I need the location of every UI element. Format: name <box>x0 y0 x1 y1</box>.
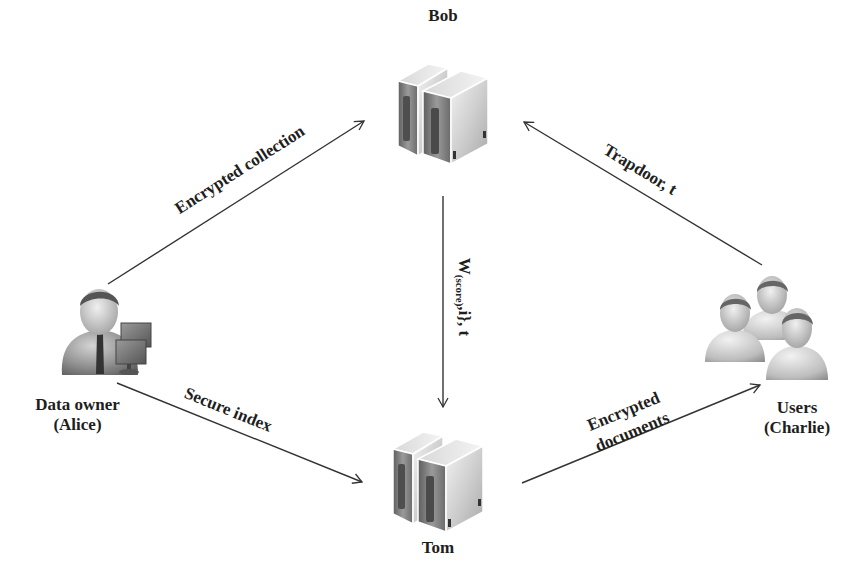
alice-role: Data owner <box>15 395 140 415</box>
edge-label-bob-to-tom: W(score),i}, t <box>450 237 474 357</box>
node-label-alice: Data owner (Alice) <box>15 395 140 435</box>
users-group-icon <box>705 276 828 380</box>
node-label-charlie: Users (Charlie) <box>742 398 852 438</box>
edge-secure-index <box>117 383 362 482</box>
edge-label-rest: ,i}, t <box>455 306 474 336</box>
alice-name: (Alice) <box>15 415 140 435</box>
charlie-role: Users <box>742 398 852 418</box>
server-icon-bob <box>398 64 488 164</box>
edge-encrypted-collection <box>108 121 364 284</box>
edge-label-score-subscript: (score) <box>454 275 466 307</box>
node-label-tom: Tom <box>408 538 468 558</box>
server-icon-tom <box>393 432 483 532</box>
charlie-name: (Charlie) <box>742 418 852 438</box>
data-owner-icon <box>62 289 151 375</box>
node-label-bob: Bob <box>413 6 473 26</box>
diagram-graphics <box>0 0 854 573</box>
edge-trapdoor <box>524 122 762 265</box>
diagram-canvas: Bob Tom Data owner (Alice) Users (Charli… <box>0 0 854 573</box>
edge-label-w: W <box>455 258 474 275</box>
